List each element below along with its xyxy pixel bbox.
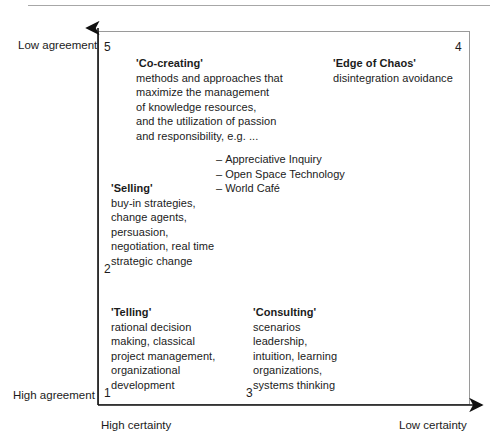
axis-label-high-certainty: High certainty [101, 419, 171, 431]
consulting-line-1: scenarios [253, 321, 301, 333]
consulting-title: 'Consulting' [253, 305, 393, 320]
bullet-label-2: Open Space Technology [225, 168, 345, 180]
selling-line-5: strategic change [111, 255, 193, 267]
bullet-label-1: Appreciative Inquiry [225, 153, 322, 165]
telling-line-4: organizational [111, 364, 180, 376]
quadrant-text-telling: 'Telling' rational decision making, clas… [111, 305, 246, 393]
axis-label-low-agreement: Low agreement [18, 39, 97, 51]
selling-line-3: persuasion, [111, 226, 168, 238]
consulting-line-2: leadership, [253, 335, 307, 347]
quadrant-text-co-creating: 'Co-creating' methods and approaches tha… [136, 56, 366, 144]
bullet-dash-icon: – [216, 168, 222, 180]
co-creating-title: 'Co-creating' [136, 56, 366, 71]
telling-line-3: project management, [111, 350, 215, 362]
selling-line-1: buy-in strategies, [111, 197, 196, 209]
quadrant-text-selling: 'Selling' buy-in strategies, change agen… [111, 181, 241, 269]
co-creating-methods-list: –Appreciative Inquiry –Open Space Techno… [216, 152, 406, 196]
quadrant-text-edge-of-chaos: 'Edge of Chaos' disintegration avoidance [333, 56, 493, 85]
telling-line-5: development [111, 379, 175, 391]
consulting-line-4: organizations, [253, 364, 322, 376]
bullet-dash-icon: – [216, 153, 222, 165]
telling-line-2: making, classical [111, 335, 195, 347]
diagram-canvas: 5 4 2 1 3 'Co-creating' methods and appr… [0, 0, 498, 442]
list-item: –Open Space Technology [216, 167, 406, 182]
list-item: –World Café [216, 181, 406, 196]
quadrant-number-1: 1 [104, 386, 111, 400]
selling-title: 'Selling' [111, 181, 241, 196]
edge-of-chaos-line-1: disintegration avoidance [333, 72, 453, 84]
co-creating-line-1: methods and approaches that [136, 72, 283, 84]
consulting-line-5: systems thinking [253, 379, 335, 391]
list-item: –Appreciative Inquiry [216, 152, 406, 167]
consulting-line-3: intuition, learning [253, 350, 337, 362]
telling-line-1: rational decision [111, 321, 191, 333]
top-divider-rule [28, 5, 490, 6]
co-creating-line-3: of knowledge resources, [136, 101, 256, 113]
edge-of-chaos-title: 'Edge of Chaos' [333, 56, 493, 71]
co-creating-line-5: and responsibility, e.g. ... [136, 130, 258, 142]
axis-label-low-certainty: Low certainty [399, 419, 467, 431]
selling-line-2: change agents, [111, 211, 187, 223]
quadrant-number-3: 3 [246, 386, 253, 400]
co-creating-line-4: and the utilization of passion [136, 115, 276, 127]
telling-title: 'Telling' [111, 305, 246, 320]
quadrant-number-5: 5 [104, 40, 111, 54]
quadrant-number-4: 4 [455, 40, 462, 54]
axis-label-high-agreement: High agreement [13, 389, 95, 401]
quadrant-number-2: 2 [104, 262, 111, 276]
selling-line-4: negotiation, real time [111, 240, 214, 252]
co-creating-line-2: maximize the management [136, 86, 269, 98]
quadrant-text-consulting: 'Consulting' scenarios leadership, intui… [253, 305, 393, 393]
